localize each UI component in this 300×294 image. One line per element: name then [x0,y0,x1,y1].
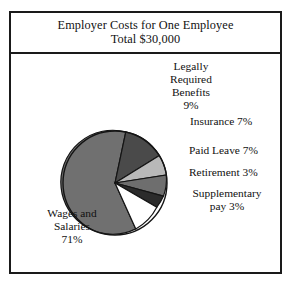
pie-label-line: Wages and [22,207,122,220]
pie-label-line: Paid Leave 7% [189,144,258,157]
pie-label-paid-leave: Paid Leave 7% [189,144,258,157]
pie-label-line: Legally [148,60,234,73]
chart-title-block: Employer Costs for One Employee Total $3… [11,13,280,54]
pie-label-legally-required-benefits: Legally Required Benefits 9% [148,60,234,112]
pie-label-retirement: Retirement 3% [189,166,258,179]
pie-label-insurance: Insurance 7% [190,115,252,128]
pie-label-line: Supplementary [175,187,279,200]
pie-label-line: Insurance 7% [190,115,252,128]
pie-label-value: 71% [22,233,122,246]
pie-label-line: Retirement 3% [189,166,258,179]
figure-frame: Employer Costs for One Employee Total $3… [9,11,282,274]
pie-chart-plot-area: Legally Required Benefits 9% Insurance 7… [11,54,280,274]
pie-label-line: Required [148,73,234,86]
pie-label-supplementary-pay: Supplementary pay 3% [175,187,279,213]
chart-title-line-1: Employer Costs for One Employee [58,19,234,33]
pie-label-value: 9% [148,99,234,112]
pie-label-line: Salaries [22,220,122,233]
pie-label-wages-and-salaries: Wages and Salaries 71% [22,207,122,246]
pie-label-line: Benefits [148,86,234,99]
pie-label-value: pay 3% [175,200,279,213]
chart-title-line-2: Total $30,000 [111,33,180,47]
